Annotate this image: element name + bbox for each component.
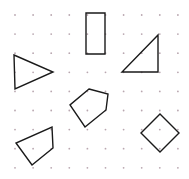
top-rectangle: Vertical rectangle	[86, 13, 105, 54]
grid-dot	[141, 14, 143, 16]
grid-dot	[32, 148, 34, 150]
grid-dot	[68, 110, 70, 112]
grid-dot	[68, 148, 70, 150]
grid-dot	[105, 167, 107, 169]
grid-dot	[87, 33, 89, 35]
grid-dot	[123, 129, 125, 131]
shape-layer: Triangle pointing rightVertical rectangl…	[14, 13, 179, 165]
grid-dot	[123, 91, 125, 93]
grid-dot	[32, 52, 34, 54]
grid-dot	[32, 71, 34, 73]
grid-dot	[87, 129, 89, 131]
grid-dot	[177, 129, 179, 131]
grid-dot	[14, 52, 16, 54]
grid-dot	[141, 129, 143, 131]
grid-dot	[32, 110, 34, 112]
grid-dot	[123, 148, 125, 150]
grid-dot	[159, 148, 161, 150]
grid-dot	[123, 167, 125, 169]
figure-canvas: Triangle pointing rightVertical rectangl…	[0, 0, 189, 179]
grid-dot	[105, 129, 107, 131]
top-right-triangle: Right triangle	[122, 35, 158, 72]
grid-dot	[50, 91, 52, 93]
grid-dot	[159, 71, 161, 73]
grid-dot	[123, 14, 125, 16]
grid-dot	[105, 148, 107, 150]
grid-dot	[159, 91, 161, 93]
grid-dot	[14, 167, 16, 169]
grid-dot	[50, 110, 52, 112]
grid-dot	[87, 71, 89, 73]
grid-dot	[32, 129, 34, 131]
grid-dot	[177, 91, 179, 93]
grid-dot	[68, 33, 70, 35]
grid-dot	[141, 148, 143, 150]
grid-dot	[87, 110, 89, 112]
grid-dot	[68, 91, 70, 93]
grid-dot	[68, 71, 70, 73]
grid-dot	[68, 52, 70, 54]
grid-dot	[177, 110, 179, 112]
grid-dot	[123, 33, 125, 35]
grid-dot	[14, 33, 16, 35]
bottom-left-quadrilateral: Quadrilateral	[16, 127, 53, 165]
grid-dot	[50, 33, 52, 35]
grid-dot	[14, 148, 16, 150]
grid-dot	[159, 167, 161, 169]
grid-dot	[159, 52, 161, 54]
grid-dot	[50, 14, 52, 16]
grid-dot	[68, 14, 70, 16]
grid-dot	[159, 14, 161, 16]
grid-dot	[123, 110, 125, 112]
grid-dot	[141, 91, 143, 93]
grid-dot	[159, 110, 161, 112]
grid-dot	[87, 148, 89, 150]
grid-dot	[32, 14, 34, 16]
grid-dot	[177, 148, 179, 150]
grid-dot	[177, 167, 179, 169]
grid-dot	[141, 110, 143, 112]
grid-dot	[14, 91, 16, 93]
grid-dot	[14, 14, 16, 16]
grid-dot	[50, 167, 52, 169]
grid-dot	[105, 71, 107, 73]
grid-dot	[68, 129, 70, 131]
grid-dot	[32, 91, 34, 93]
grid-dot	[14, 110, 16, 112]
polygon-diagram: Triangle pointing rightVertical rectangl…	[0, 0, 189, 179]
grid-dot	[177, 71, 179, 73]
grid-dot	[68, 167, 70, 169]
bottom-right-diamond: Diamond	[141, 114, 179, 152]
grid-dot	[32, 33, 34, 35]
grid-dot	[87, 167, 89, 169]
center-pentagon: Pentagon	[70, 89, 108, 127]
grid-dot	[159, 129, 161, 131]
grid-dot	[50, 52, 52, 54]
grid-dot	[14, 129, 16, 131]
grid-dot	[177, 14, 179, 16]
grid-dot	[159, 33, 161, 35]
grid-dot	[87, 14, 89, 16]
grid-dot	[177, 52, 179, 54]
grid-dot	[177, 33, 179, 35]
grid-dot	[105, 91, 107, 93]
grid-dot	[141, 167, 143, 169]
grid-dot	[141, 33, 143, 35]
grid-dot	[123, 52, 125, 54]
grid-dot	[32, 167, 34, 169]
